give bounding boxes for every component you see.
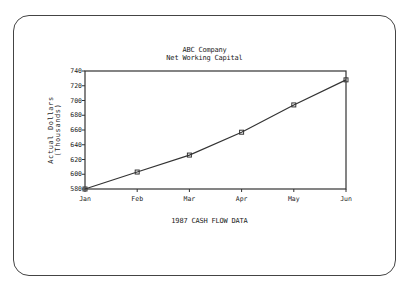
plot-border: [85, 71, 346, 189]
data-line: [85, 80, 346, 189]
plot-area: [0, 0, 409, 291]
